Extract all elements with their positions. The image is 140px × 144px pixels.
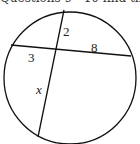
label-segment-left: 3 — [28, 50, 35, 65]
label-segment-top: 2 — [63, 24, 70, 39]
circle-chords-diagram: 2 8 3 x — [0, 0, 140, 144]
circle — [4, 12, 136, 144]
label-segment-bottom: x — [35, 82, 42, 97]
label-segment-right: 8 — [91, 40, 98, 55]
chord-vertical — [38, 10, 64, 137]
